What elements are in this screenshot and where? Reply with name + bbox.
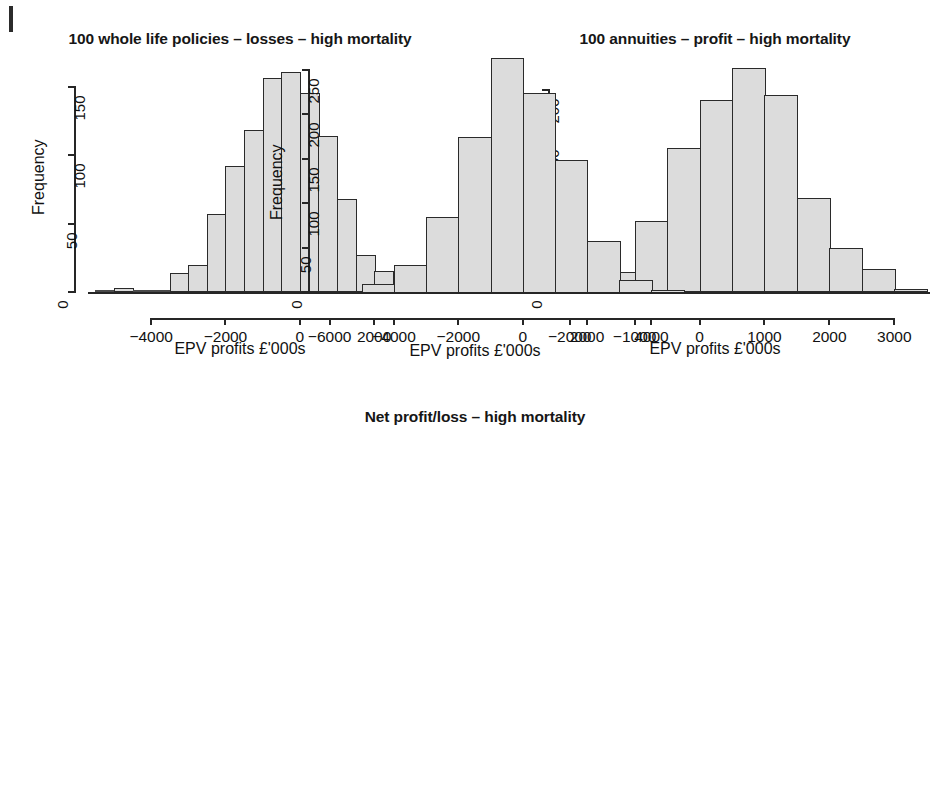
x-axis-tick [224,318,226,325]
x-axis-line [330,318,652,320]
x-axis-tick [699,318,701,325]
x-axis-tick [299,318,301,325]
x-axis-label: EPV profits £'000s [255,342,695,360]
x-axis-end-tick [329,318,331,325]
histogram-bar [188,265,208,293]
x-axis-end-tick [650,318,652,325]
histogram-bar [207,214,227,293]
y-axis-tick [68,154,76,156]
histogram-bar [619,280,653,293]
x-axis-tick [828,318,830,325]
histogram-bar [170,273,190,293]
histogram-bars [255,408,695,788]
histogram-bar [225,166,245,292]
histogram-bar [732,68,766,292]
y-axis-tick-label: 150 [305,167,322,192]
histogram-bar [700,100,734,292]
histogram-bar [555,160,589,292]
y-axis-tick [542,89,550,91]
y-axis-tick-label: 0 [528,301,545,309]
histogram-bar [829,248,863,293]
y-axis-tick [302,69,310,71]
histogram-bar [244,130,264,292]
x-axis-tick [522,318,524,325]
page-edge-rule [9,6,13,32]
histogram-bar [667,148,701,293]
plot-baseline [320,292,690,294]
y-axis-label: Frequency [268,144,286,220]
histogram-bar [764,95,798,292]
histogram-bar [797,198,831,292]
y-axis-tick-label: 0 [288,301,305,309]
x-axis-tick [393,318,395,325]
y-axis-tick [302,158,310,160]
y-axis-tick [68,291,76,293]
y-axis-tick [302,291,310,293]
y-axis-tick-label: 100 [71,164,88,189]
histogram-bar [491,58,525,292]
y-axis-tick [68,223,76,225]
y-axis-tick [68,86,76,88]
histogram-bar [458,137,492,292]
y-axis-tick [302,247,310,249]
y-axis-tick-label: 0 [54,301,71,309]
chart-panel-net-profit-loss: Net profit/loss – high mortality 0501001… [255,408,695,788]
x-axis-tick [457,318,459,325]
histogram-bar [394,265,428,292]
y-axis-tick-label: 100 [305,212,322,237]
y-axis-tick-label: 150 [71,95,88,120]
y-axis-tick [302,113,310,115]
histogram-bar [337,199,357,293]
y-axis-tick-label: 200 [305,123,322,148]
histogram-bar [862,269,896,293]
x-axis-tick [763,318,765,325]
y-axis-tick-label: 250 [305,78,322,103]
plot-area: 050100150200250Frequency−6000−4000−20000… [255,408,695,788]
histogram-bar [587,241,621,292]
y-axis-label: Frequency [30,139,48,215]
histogram-bar [426,217,460,292]
x-axis-end-tick [893,318,895,325]
y-axis-tick [302,202,310,204]
x-axis-tick [586,318,588,325]
y-axis-tick-label: 50 [297,256,314,273]
y-axis-tick-label: 50 [63,232,80,249]
histogram-bar [523,93,557,293]
x-axis-end-tick [150,318,152,325]
